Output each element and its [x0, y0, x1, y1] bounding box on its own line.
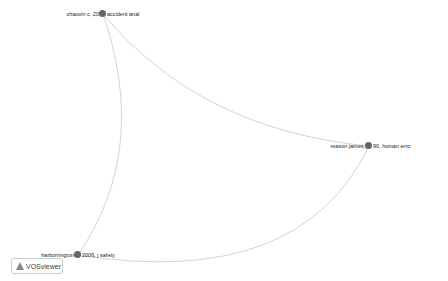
vosviewer-logo[interactable]: VOSviewer: [11, 258, 63, 274]
network-edges: [0, 0, 448, 281]
node-label-chauvin-left: chauvin c, 20: [67, 11, 99, 17]
edge-chauvin-harborrington: [78, 14, 122, 255]
logo-text: VOSviewer: [26, 263, 61, 270]
node-label-chauvin-right: accident anal: [107, 11, 139, 17]
node-label-reason-left: reason james,: [330, 143, 365, 149]
node-harborrington[interactable]: [74, 251, 81, 258]
edge-harborrington-reason: [78, 146, 369, 262]
node-chauvin[interactable]: [99, 10, 106, 17]
vosviewer-logo-icon: [16, 262, 24, 270]
edge-chauvin-reason: [103, 14, 369, 146]
node-label-harb-right: 2006, j safety: [82, 252, 115, 258]
node-label-reason-right: 90, human erro: [373, 143, 410, 149]
node-reason[interactable]: [365, 142, 372, 149]
